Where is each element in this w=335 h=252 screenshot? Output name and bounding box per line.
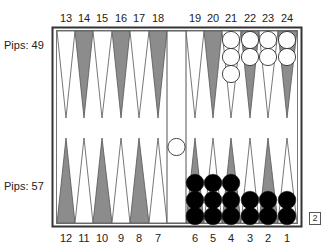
point-label-4: 4 [222, 232, 240, 244]
point-label-17: 17 [130, 12, 148, 24]
black-checker[interactable] [186, 191, 204, 209]
white-checker[interactable] [259, 48, 276, 65]
black-checker[interactable] [204, 191, 222, 209]
white-checker[interactable] [222, 65, 239, 82]
point-label-18: 18 [149, 12, 167, 24]
pip-count-top: Pips: 49 [4, 39, 44, 51]
black-checker[interactable] [278, 207, 296, 225]
point-label-24: 24 [278, 12, 296, 24]
point-label-7: 7 [149, 232, 167, 244]
backgammon-board [0, 0, 335, 252]
black-checker[interactable] [259, 191, 277, 209]
point-label-21: 21 [222, 12, 240, 24]
point-label-1: 1 [278, 232, 296, 244]
white-checker-on-bar[interactable] [168, 138, 185, 155]
white-checker[interactable] [278, 48, 295, 65]
pip-count-bottom: Pips: 57 [4, 180, 44, 192]
point-label-15: 15 [93, 12, 111, 24]
black-checker[interactable] [278, 191, 296, 209]
black-checker[interactable] [204, 174, 222, 192]
doubling-cube[interactable]: 2 [309, 212, 321, 225]
white-checker[interactable] [222, 31, 239, 48]
point-label-22: 22 [241, 12, 259, 24]
white-checker[interactable] [241, 31, 258, 48]
black-checker[interactable] [241, 191, 259, 209]
point-label-19: 19 [186, 12, 204, 24]
point-label-9: 9 [112, 232, 130, 244]
white-checker[interactable] [259, 31, 276, 48]
black-checker[interactable] [259, 207, 277, 225]
black-checker[interactable] [222, 191, 240, 209]
point-label-6: 6 [186, 232, 204, 244]
black-checker[interactable] [186, 174, 204, 192]
black-checker[interactable] [204, 207, 222, 225]
white-checker[interactable] [278, 31, 295, 48]
point-label-8: 8 [130, 232, 148, 244]
point-label-20: 20 [204, 12, 222, 24]
black-checker[interactable] [222, 207, 240, 225]
point-label-12: 12 [57, 232, 75, 244]
white-checker[interactable] [241, 48, 258, 65]
point-label-23: 23 [259, 12, 277, 24]
black-checker[interactable] [222, 174, 240, 192]
black-checker[interactable] [186, 207, 204, 225]
point-label-16: 16 [112, 12, 130, 24]
white-checker[interactable] [222, 48, 239, 65]
point-label-2: 2 [259, 232, 277, 244]
point-label-14: 14 [75, 12, 93, 24]
point-label-3: 3 [241, 232, 259, 244]
point-label-13: 13 [57, 12, 75, 24]
point-label-5: 5 [204, 232, 222, 244]
bar[interactable] [167, 31, 186, 223]
black-checker[interactable] [241, 207, 259, 225]
point-label-11: 11 [75, 232, 93, 244]
point-label-10: 10 [93, 232, 111, 244]
